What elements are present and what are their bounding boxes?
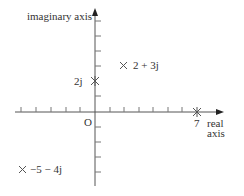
point-2j-marker-icon xyxy=(91,76,99,86)
tick-label-7: 7 xyxy=(194,117,200,129)
real-axis-label-line2: axis xyxy=(207,127,225,139)
tick-label-2j: 2j xyxy=(74,75,83,87)
real-axis-arrow-icon xyxy=(216,109,224,115)
origin-label: O xyxy=(84,116,92,128)
imaginary-axis-arrow-icon xyxy=(92,8,98,16)
imaginary-axis-ticks xyxy=(95,21,101,172)
point-label-2-plus-3j: 2 + 3j xyxy=(133,59,159,71)
imaginary-axis-label: imaginary axis xyxy=(27,10,92,22)
point-2-plus-3j-marker-icon xyxy=(120,62,127,69)
argand-diagram: imaginary axis 2j 2 + 3j O 7 real axis −… xyxy=(0,0,244,196)
real-axis-ticks xyxy=(21,107,182,112)
point-label-minus5-minus4j: −5 − 4j xyxy=(30,163,62,175)
point-minus5-minus4j-marker-icon xyxy=(19,166,26,173)
